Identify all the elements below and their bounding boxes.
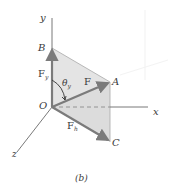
Fy-base: F <box>38 68 45 79</box>
origin-O-label: O <box>39 101 47 111</box>
x-axis-label: x <box>153 107 159 117</box>
z-axis <box>17 107 52 152</box>
Fy-subscript: y <box>45 73 48 80</box>
point-C-label: C <box>112 138 120 148</box>
Fh-base: F <box>67 120 74 131</box>
z-axis-label: z <box>12 150 17 159</box>
figure-caption: (b) <box>75 174 88 183</box>
y-axis-label: y <box>40 13 46 23</box>
vector-F-label: F <box>84 77 91 87</box>
point-A-label: A <box>112 77 119 87</box>
force-diagram: y x z B A C O Fy F Fh θy (b) <box>0 0 170 194</box>
background-ghost-lines <box>120 10 168 80</box>
angle-theta-y-label: θy <box>62 79 71 88</box>
Fh-subscript: h <box>74 125 78 132</box>
point-B-label: B <box>38 43 45 53</box>
vector-Fh-label: Fh <box>67 121 78 131</box>
theta-subscript: y <box>67 82 70 89</box>
vector-Fy-label: Fy <box>38 69 48 79</box>
diagram-graphics <box>0 0 170 194</box>
